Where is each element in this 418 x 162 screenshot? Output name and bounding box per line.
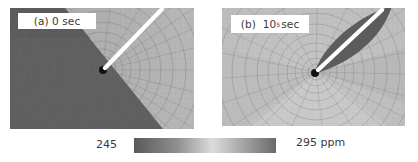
colorbar (134, 138, 276, 153)
panel-b: (b) 105sec (222, 8, 405, 126)
panel-a-label-prefix: (a) (34, 15, 49, 27)
panel-b-label-exponent: 5 (276, 21, 280, 28)
panel-b-label-base: 10 (263, 18, 277, 30)
panel-b-label-prefix: (b) (241, 18, 256, 30)
panel-b-label-unit: sec (281, 18, 299, 30)
panel-a-label: (a) 0 sec (18, 13, 96, 29)
panel-b-label: (b) 105sec (231, 15, 309, 33)
panel-a: (a) 0 sec (10, 8, 194, 129)
colorbar-min-label: 245 (96, 138, 117, 151)
colorbar-max-label: 295 ppm (296, 136, 345, 149)
panel-a-label-time: 0 sec (52, 15, 80, 27)
